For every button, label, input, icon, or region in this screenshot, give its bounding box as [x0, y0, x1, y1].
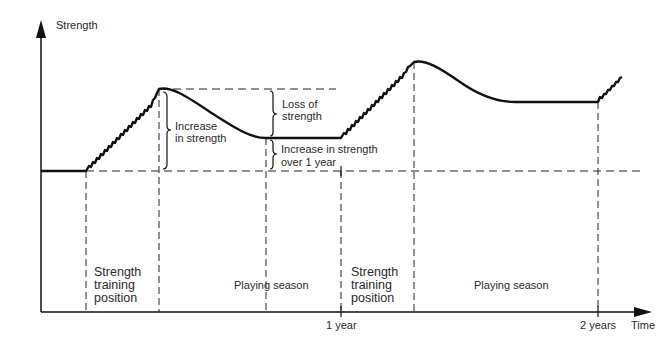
x-axis-arrow-icon [634, 307, 652, 317]
x-axis-label: Time [631, 319, 655, 332]
phase-3-line2: training [351, 278, 392, 292]
annotation-yearly-line1: Increase in strength [281, 143, 378, 156]
phase-3-line3: position [351, 291, 394, 305]
phase-3-line1: Strength [351, 265, 398, 279]
yearly-brace [270, 140, 277, 169]
tick-label-2-years: 2 years [580, 319, 616, 332]
phase-4-label: Playing season [474, 279, 549, 292]
y-axis-arrow-icon [36, 20, 46, 38]
phase-2-label: Playing season [234, 279, 309, 292]
loss-brace [270, 91, 277, 136]
annotation-increase-line2: in strength [175, 132, 226, 145]
annotation-yearly-line2: over 1 year [281, 156, 336, 169]
tick-label-1-year: 1 year [326, 319, 357, 332]
phase-1-line1: Strength [94, 265, 141, 279]
y-axis-label: Strength [56, 19, 98, 32]
phase-1-line2: training [94, 278, 135, 292]
annotation-loss-line2: strength [282, 110, 322, 123]
increase-brace [163, 92, 171, 169]
phase-1-line3: position [94, 291, 137, 305]
